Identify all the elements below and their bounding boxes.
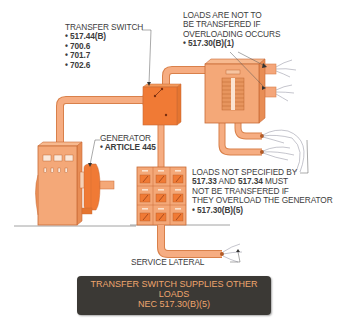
caption-line-2: LOADS <box>77 289 271 299</box>
ref-value: ARTICLE 445 <box>105 142 156 152</box>
transfer-switch-label: TRANSFER SWITCH • 517.44(B) • 700.6 • 70… <box>65 23 143 70</box>
ref-517-30b1: • 517.30(B)(1) <box>183 39 280 48</box>
bullet: • <box>192 205 195 215</box>
ref-value: 702.6 <box>70 60 90 70</box>
panelboard <box>205 59 265 123</box>
service-lateral-title: SERVICE LATERAL <box>131 258 204 267</box>
bullet: • <box>65 60 68 70</box>
service-lateral-label: SERVICE LATERAL <box>131 258 204 267</box>
ref-517-33: 517.33 <box>192 176 217 186</box>
caption-line-3: NEC 517.30(B)(5) <box>77 299 271 309</box>
label-text: MUST <box>263 176 288 186</box>
conduits-panel-bottom-loads <box>222 122 264 154</box>
ref-702-6: • 702.6 <box>65 61 143 70</box>
ref-517-30b5: • 517.30(B)(5) <box>192 206 333 215</box>
loads-not-specified-label: LOADS NOT SPECIFIED BY 517.33 AND 517.34… <box>192 168 333 215</box>
ref-article-445: • ARTICLE 445 <box>100 143 156 152</box>
ref-value: 517.30(B)(5) <box>197 205 243 215</box>
wires-panel-right <box>276 60 296 101</box>
wires-panel-bottom <box>263 130 304 172</box>
generator-label: GENERATOR • ARTICLE 445 <box>100 134 156 153</box>
wires-service-lateral <box>223 244 242 262</box>
meter-stack <box>137 167 186 225</box>
transfer-switch <box>143 84 181 125</box>
service-lateral-conduit <box>161 225 224 256</box>
caption-box: TRANSFER SWITCH SUPPLIES OTHER LOADS NEC… <box>77 276 271 315</box>
caption-line-1: TRANSFER SWITCH SUPPLIES OTHER <box>77 279 271 289</box>
ref-517-34: 517.34 <box>238 176 263 186</box>
conjunction: AND <box>217 176 238 186</box>
loads-not-transferred-label: LOADS ARE NOT TO BE TRANSFERED IF OVERLO… <box>183 11 280 49</box>
generator <box>36 142 115 225</box>
bullet: • <box>183 38 186 48</box>
conduit-switch-to-panel <box>166 70 208 86</box>
ref-value: 517.30(B)(1) <box>188 38 234 48</box>
transfer-switch-diagram <box>0 0 344 322</box>
generator-motor <box>80 164 114 214</box>
breaker-rows <box>222 78 244 110</box>
bullet: • <box>100 142 103 152</box>
